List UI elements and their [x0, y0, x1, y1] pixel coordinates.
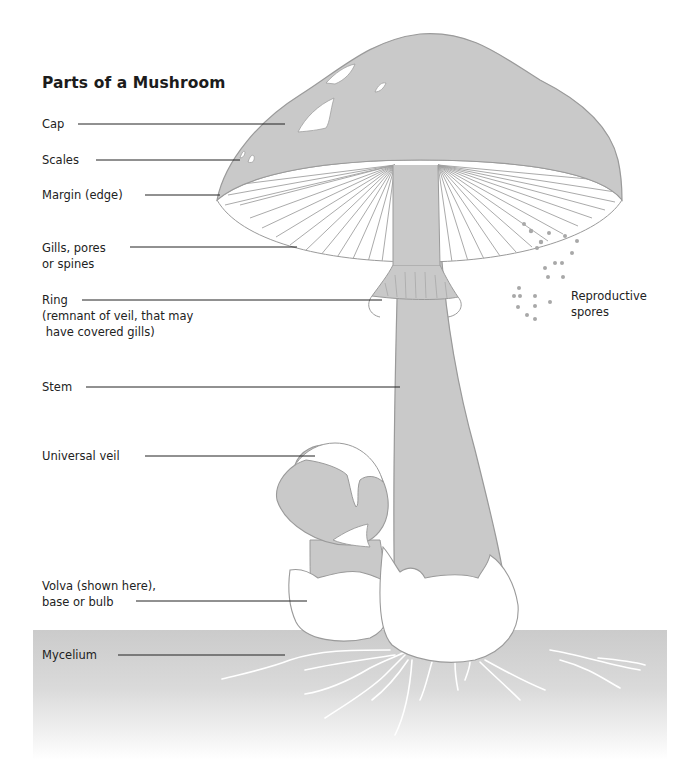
label-gills: Gills, pores or spines: [42, 240, 106, 272]
soil-band: [33, 630, 667, 760]
label-margin: Margin (edge): [42, 187, 123, 203]
label-scales: Scales: [42, 152, 79, 168]
small-volva: [289, 569, 392, 641]
label-cap: Cap: [42, 116, 64, 132]
page-title: Parts of a Mushroom: [42, 74, 225, 92]
label-mycelium: Mycelium: [42, 647, 97, 663]
label-universal-veil: Universal veil: [42, 448, 120, 464]
label-volva: Volva (shown here), base or bulb: [42, 578, 156, 610]
label-spores: Reproductive spores: [571, 288, 647, 320]
label-stem: Stem: [42, 379, 72, 395]
mushroom-diagram: [0, 0, 699, 769]
label-ring: Ring (remnant of veil, that may have cov…: [42, 292, 193, 340]
